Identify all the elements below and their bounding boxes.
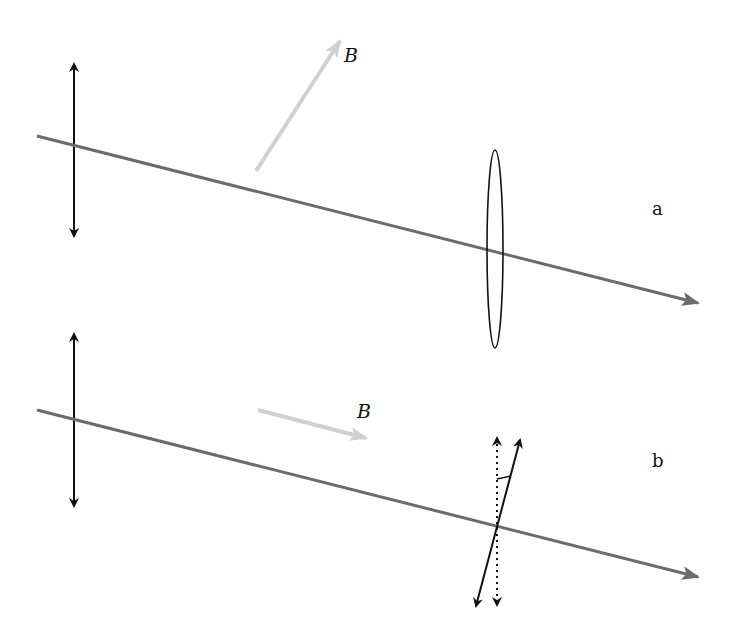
panel-a — [37, 41, 698, 348]
field-label-b: B — [357, 400, 371, 422]
beam-line-a — [37, 136, 698, 303]
panel-b — [37, 334, 698, 606]
beam-line-b — [37, 410, 698, 577]
diagram-canvas: B a B b — [0, 0, 734, 640]
field-label-a: B — [344, 44, 358, 66]
diagram-svg — [0, 0, 734, 640]
magnetic-field-arrow-b — [258, 410, 366, 438]
magnetic-field-arrow-a — [256, 41, 340, 171]
panel-label-a: a — [652, 198, 663, 219]
panel-label-b: b — [652, 450, 664, 471]
